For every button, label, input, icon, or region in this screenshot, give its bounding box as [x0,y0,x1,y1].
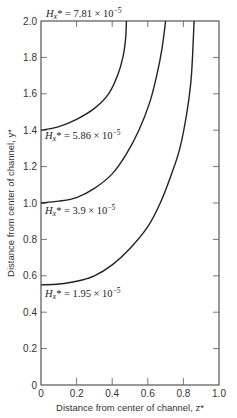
x-tick-label: 0.8 [176,388,190,399]
x-tick-label: 1.0 [212,388,226,399]
x-tick-label: 0.2 [70,388,84,399]
x-axis-label: Distance from center of channel, z* [56,402,204,413]
y-tick-label: 1.2 [23,161,37,172]
curve-line-1 [41,21,166,203]
curve-label-3-9: Hx* = 3.9 × 10−5 [44,203,116,218]
y-tick-label: 2.0 [23,16,37,27]
y-tick-label: 1.0 [23,198,37,209]
y-tick-label: 1.8 [23,52,37,63]
chart: 00.20.40.60.81.01.21.41.61.82.0 00.20.40… [0,0,237,418]
curves [41,21,194,285]
curve-label-5-86: Hx* = 5.86 × 10−5 [44,128,121,143]
curve-line-2 [41,21,194,285]
y-tick-label: 0.6 [23,270,37,281]
x-tick-label: 0.6 [141,388,155,399]
curve-label-7-81: Hx* = 7.81 × 10−5 [45,6,122,21]
x-tick-label: 0 [38,388,44,399]
y-tick-label: 0.2 [23,343,37,354]
y-tick-label: 0 [31,380,37,391]
y-axis-ticks: 00.20.40.60.81.01.21.41.61.82.0 [23,16,219,391]
x-tick-label: 0.4 [105,388,119,399]
y-tick-label: 1.4 [23,125,37,136]
curve-line-0 [41,21,126,130]
y-axis-label: Distance from center of channel, y* [5,129,16,277]
plot-frame [41,21,219,385]
curve-label-1-95: Hx* = 1.95 × 10−5 [44,286,121,301]
y-tick-label: 0.4 [23,307,37,318]
y-tick-label: 0.8 [23,234,37,245]
y-tick-label: 1.6 [23,88,37,99]
